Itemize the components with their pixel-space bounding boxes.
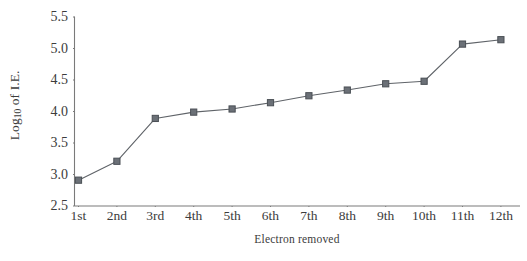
y-axis-tick-label: 5.5 (32, 10, 68, 24)
y-axis-title-suffix: of I.E. (7, 70, 22, 108)
y-axis-title: Log10 of I.E. (0, 0, 30, 210)
data-point-marker (306, 93, 312, 99)
data-point-marker (114, 158, 120, 164)
chart-figure: Log10 of I.E. 5.55.04.54.03.53.02.5 1st2… (0, 0, 527, 261)
chart-svg (73, 10, 521, 207)
y-axis-title-prefix: Log (7, 118, 22, 140)
data-line (79, 40, 501, 180)
data-point-marker (267, 100, 273, 106)
y-axis-tick-label: 3.0 (32, 168, 68, 182)
plot-area (73, 10, 521, 207)
data-point-marker (75, 177, 81, 183)
data-markers (75, 37, 504, 184)
axis-ticks (73, 17, 501, 207)
data-point-marker (498, 37, 504, 43)
y-axis-tick-label: 5.0 (32, 42, 68, 56)
y-axis-title-text: Log10 of I.E. (7, 70, 24, 140)
x-axis-title: Electron removed (73, 233, 521, 245)
axes (75, 17, 521, 207)
y-axis-tick-label: 4.5 (32, 73, 68, 87)
data-point-marker (152, 115, 158, 121)
y-axis-title-subscript: 10 (13, 108, 23, 118)
x-axis-tick-label: 12th (478, 209, 524, 223)
y-axis-tick-label: 3.5 (32, 136, 68, 150)
data-point-marker (229, 106, 235, 112)
data-point-marker (191, 109, 197, 115)
data-point-marker (421, 78, 427, 84)
y-axis-tick-label: 4.0 (32, 105, 68, 119)
data-point-marker (459, 41, 465, 47)
data-point-marker (344, 87, 350, 93)
data-point-marker (383, 81, 389, 87)
x-axis-tick-labels: 1st2nd3rd4th5th6th7th8th9th10th11th12th (73, 209, 521, 229)
